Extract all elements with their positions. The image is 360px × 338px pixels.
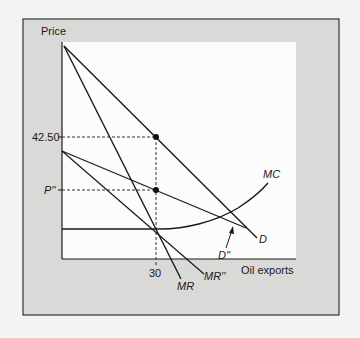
plot-area xyxy=(62,42,296,259)
y-tick-p2: P'' xyxy=(44,184,56,196)
x-axis-label: Oil exports xyxy=(241,264,294,276)
y-axis-label: Price xyxy=(41,25,66,37)
y-tick-42-50: 42.50 xyxy=(32,131,60,143)
d2-label: D'' xyxy=(218,249,231,261)
mc-label: MC xyxy=(263,168,280,180)
mr2-label: MR'' xyxy=(204,270,226,282)
d-label: D xyxy=(259,233,267,245)
x-tick-30: 30 xyxy=(149,267,161,279)
mr-label: MR xyxy=(177,280,194,292)
point-d2-at-30 xyxy=(153,187,159,193)
oil-monopoly-diagram: Price 42.50 P'' 30 Oil exports MC D D'' … xyxy=(0,0,360,338)
point-d-at-30 xyxy=(153,134,159,140)
